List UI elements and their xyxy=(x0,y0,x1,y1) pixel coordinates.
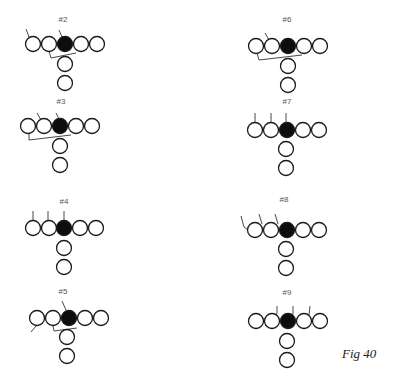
center-player-filled-circle xyxy=(62,311,77,326)
lineman-circle xyxy=(297,314,312,329)
formation-diagram: #9 xyxy=(249,288,328,368)
back-circle xyxy=(57,241,72,256)
figure-caption: Fig 40 xyxy=(342,346,376,362)
back-circle xyxy=(280,334,295,349)
back-circle xyxy=(280,353,295,368)
lineman-circle xyxy=(264,123,279,138)
lineman-circle xyxy=(313,39,328,54)
lineman-circle xyxy=(94,311,109,326)
center-player-filled-circle xyxy=(280,223,295,238)
diagram-label: #7 xyxy=(283,97,292,106)
lineman-circle xyxy=(265,314,280,329)
diagram-label: #3 xyxy=(57,97,66,106)
lineman-circle xyxy=(69,119,84,134)
lineman-circle xyxy=(265,39,280,54)
formation-diagram: #8 xyxy=(241,195,327,276)
back-circle xyxy=(281,59,296,74)
back-circle xyxy=(281,78,296,93)
formation-diagram: #3 xyxy=(21,97,100,173)
assignment-line xyxy=(257,53,302,60)
back-circle xyxy=(279,242,294,257)
lineman-circle xyxy=(26,37,41,52)
diagrams-layer: #2#3#4#5#6#7#8#9 xyxy=(21,15,328,368)
lineman-circle xyxy=(37,119,52,134)
formation-diagram: #4 xyxy=(26,197,104,275)
diagram-label: #5 xyxy=(59,287,68,296)
center-player-filled-circle xyxy=(280,123,295,138)
center-player-filled-circle xyxy=(53,119,68,134)
lineman-circle xyxy=(46,311,61,326)
assignment-line xyxy=(241,216,248,230)
assignment-line xyxy=(275,214,278,224)
formation-diagram: #7 xyxy=(248,97,327,176)
lineman-circle xyxy=(30,311,45,326)
center-player-filled-circle xyxy=(281,314,296,329)
lineman-circle xyxy=(42,221,57,236)
lineman-circle xyxy=(26,221,41,236)
lineman-circle xyxy=(249,314,264,329)
assignment-line xyxy=(62,301,66,310)
lineman-circle xyxy=(90,37,105,52)
back-circle xyxy=(279,261,294,276)
back-circle xyxy=(60,349,75,364)
diagram-label: #2 xyxy=(59,15,68,24)
lineman-circle xyxy=(312,123,327,138)
lineman-circle xyxy=(297,39,312,54)
lineman-circle xyxy=(312,223,327,238)
center-player-filled-circle xyxy=(57,221,72,236)
formation-diagram: #5 xyxy=(30,287,109,364)
back-circle xyxy=(58,76,73,91)
diagram-label: #6 xyxy=(283,15,292,24)
lineman-circle xyxy=(264,223,279,238)
assignment-line xyxy=(31,326,36,332)
formation-diagram: #2 xyxy=(26,15,105,91)
back-circle xyxy=(58,57,73,72)
center-player-filled-circle xyxy=(281,39,296,54)
formation-diagram: #6 xyxy=(249,15,328,93)
back-circle xyxy=(53,139,68,154)
play-diagram-figure: #2#3#4#5#6#7#8#9 xyxy=(0,0,400,387)
center-player-filled-circle xyxy=(58,37,73,52)
lineman-circle xyxy=(74,37,89,52)
back-circle xyxy=(279,161,294,176)
back-circle xyxy=(60,330,75,345)
assignment-line xyxy=(259,214,262,224)
assignment-line xyxy=(29,133,71,140)
lineman-circle xyxy=(248,223,263,238)
lineman-circle xyxy=(21,119,36,134)
lineman-circle xyxy=(42,37,57,52)
lineman-circle xyxy=(249,39,264,54)
diagram-label: #9 xyxy=(283,288,292,297)
diagram-label: #4 xyxy=(60,197,69,206)
lineman-circle xyxy=(73,221,88,236)
lineman-circle xyxy=(89,221,104,236)
back-circle xyxy=(57,260,72,275)
lineman-circle xyxy=(248,123,263,138)
diagram-label: #8 xyxy=(280,195,289,204)
lineman-circle xyxy=(78,311,93,326)
assignment-line xyxy=(59,30,62,37)
back-circle xyxy=(279,142,294,157)
lineman-circle xyxy=(296,123,311,138)
back-circle xyxy=(53,158,68,173)
lineman-circle xyxy=(296,223,311,238)
lineman-circle xyxy=(313,314,328,329)
assignment-line xyxy=(26,29,29,37)
lineman-circle xyxy=(85,119,100,134)
